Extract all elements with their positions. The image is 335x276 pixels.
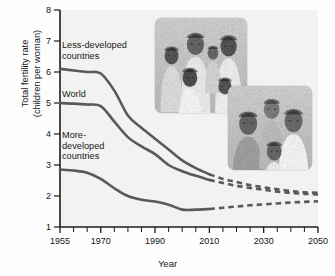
x-axis-label: Year: [0, 258, 335, 269]
y-tick-label: 6: [46, 67, 51, 77]
small-family-photo: [228, 86, 312, 170]
series-label-less-developed: Less-developed countries: [62, 40, 127, 61]
y-axis-ticks: 12345678: [46, 5, 60, 232]
y-tick-label: 8: [46, 5, 51, 15]
x-tick-label: 1990: [145, 236, 165, 246]
x-axis-ticks: 195519701990201020302050: [50, 227, 328, 246]
series-label-world: World: [62, 89, 86, 100]
series-label-more-developed: More- developed countries: [62, 130, 104, 162]
y-tick-label: 4: [46, 129, 51, 139]
y-tick-label: 3: [46, 160, 51, 170]
x-tick-label: 2010: [199, 236, 219, 246]
y-tick-label: 5: [46, 98, 51, 108]
fertility-rate-chart-figure: Total fertility rate (children per woman…: [0, 0, 335, 276]
y-tick-label: 1: [46, 222, 51, 232]
x-tick-label: 1970: [91, 236, 111, 246]
y-tick-label: 2: [46, 191, 51, 201]
y-tick-label: 7: [46, 36, 51, 46]
x-tick-label: 2030: [254, 236, 274, 246]
x-tick-label: 2050: [308, 236, 328, 246]
x-tick-label: 1955: [50, 236, 70, 246]
